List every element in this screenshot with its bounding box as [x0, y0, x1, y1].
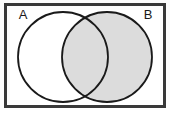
- set-a-label: A: [19, 7, 28, 22]
- venn-diagram-canvas: A B: [0, 0, 172, 115]
- venn-diagram-figure: A B: [0, 0, 172, 115]
- set-b-label: B: [144, 7, 153, 22]
